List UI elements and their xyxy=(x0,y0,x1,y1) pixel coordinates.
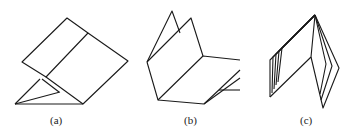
panel-c-drawing xyxy=(270,15,339,108)
panel-b-label: (b) xyxy=(184,114,197,126)
panel-c-label: (c) xyxy=(300,114,312,126)
panel-a-drawing xyxy=(15,18,128,104)
panel-a-label: (a) xyxy=(50,114,62,126)
panel-b-drawing xyxy=(147,11,240,104)
